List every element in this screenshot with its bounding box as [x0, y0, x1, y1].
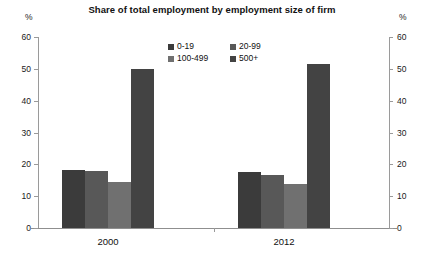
- y-axis-tick-right: [389, 228, 393, 229]
- y-axis-tick-label-right: 20: [397, 160, 406, 169]
- plot-area: 00101020203030404050506060: [38, 37, 390, 228]
- y-axis-tick-left: [34, 133, 38, 134]
- chart-legend: 0-1920-99100-499500+: [168, 41, 288, 64]
- y-axis-tick-label-left: 10: [22, 192, 31, 201]
- y-axis-unit-right: %: [399, 12, 407, 22]
- x-axis-category-label-2012: 2012: [244, 236, 324, 247]
- bar-2000-0-19: [62, 170, 85, 228]
- y-axis-tick-left: [34, 196, 38, 197]
- bar-2012-0-19: [238, 172, 261, 228]
- y-axis-tick-right: [389, 101, 393, 102]
- legend-swatch-icon-500+: [230, 56, 236, 62]
- legend-label: 0-19: [177, 42, 194, 51]
- legend-label: 500+: [239, 54, 258, 63]
- y-axis-tick-right: [389, 164, 393, 165]
- y-axis-tick-left: [34, 37, 38, 38]
- y-axis-tick-label-right: 40: [397, 97, 406, 106]
- chart-container: Share of total employment by employment …: [0, 0, 424, 261]
- x-axis-category-label-2000: 2000: [68, 236, 148, 247]
- bar-2012-20-99: [261, 175, 284, 228]
- legend-label: 20-99: [239, 42, 261, 51]
- y-axis-tick-label-right: 30: [397, 129, 406, 138]
- y-axis-tick-label-right: 10: [397, 192, 406, 201]
- legend-swatch-icon-100-499: [168, 56, 174, 62]
- bar-2012-100-499: [284, 184, 307, 228]
- y-axis-tick-right: [389, 37, 393, 38]
- chart-title: Share of total employment by employment …: [50, 4, 374, 15]
- y-axis-tick-right: [389, 196, 393, 197]
- bar-2000-100-499: [108, 182, 131, 228]
- y-axis-tick-right: [389, 69, 393, 70]
- x-axis-group-separator-tick: [214, 228, 215, 232]
- y-axis-tick-label-left: 20: [22, 160, 31, 169]
- y-axis-tick-label-left: 40: [22, 97, 31, 106]
- y-axis-tick-left: [34, 228, 38, 229]
- y-axis-tick-label-left: 50: [22, 65, 31, 74]
- legend-item-20-99[interactable]: 20-99: [230, 41, 288, 52]
- y-axis-tick-label-right: 50: [397, 65, 406, 74]
- y-axis-tick-label-left: 0: [26, 224, 31, 233]
- legend-item-0-19[interactable]: 0-19: [168, 41, 226, 52]
- legend-item-500+[interactable]: 500+: [230, 53, 288, 64]
- bar-2000-500+: [131, 69, 154, 228]
- y-axis-tick-label-left: 30: [22, 129, 31, 138]
- bar-2000-20-99: [85, 171, 108, 228]
- legend-item-100-499[interactable]: 100-499: [168, 53, 226, 64]
- legend-label: 100-499: [177, 54, 208, 63]
- legend-swatch-icon-0-19: [168, 44, 174, 50]
- y-axis-tick-left: [34, 69, 38, 70]
- y-axis-unit-left: %: [25, 12, 33, 22]
- y-axis-tick-label-right: 60: [397, 33, 406, 42]
- legend-swatch-icon-20-99: [230, 44, 236, 50]
- y-axis-tick-left: [34, 101, 38, 102]
- bar-2012-500+: [307, 64, 330, 228]
- y-axis-tick-label-right: 0: [397, 224, 402, 233]
- y-axis-left-line: [38, 37, 39, 228]
- y-axis-tick-left: [34, 164, 38, 165]
- y-axis-tick-right: [389, 133, 393, 134]
- y-axis-tick-label-left: 60: [22, 33, 31, 42]
